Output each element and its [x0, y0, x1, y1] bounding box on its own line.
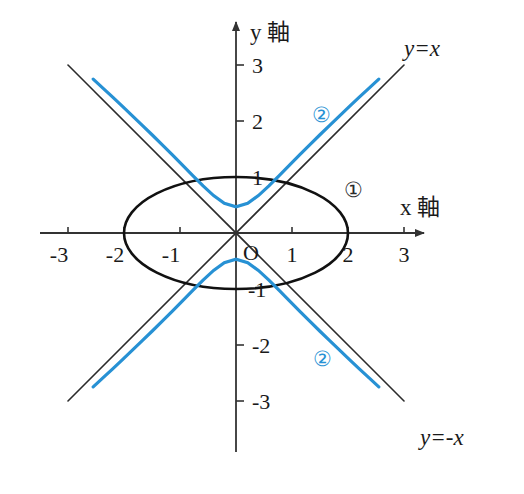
x-tick-label--2: -2 — [106, 242, 124, 267]
x-tick-label--3: -3 — [50, 242, 68, 267]
y-tick-label--3: -3 — [252, 389, 270, 414]
y-axis-label: y 軸 — [250, 20, 290, 45]
x-tick-label-2: 2 — [343, 242, 354, 267]
curve-marker-2-lower: ② — [313, 347, 332, 371]
curve-marker-2-upper: ② — [312, 103, 331, 127]
x-tick-label--1: -1 — [162, 242, 180, 267]
coordinate-plot: -3 -2 -1 1 2 3 3 2 1 -1 -2 -3 O x 軸 y 軸 … — [0, 0, 524, 494]
line-equation-y-equals-x: y=x — [402, 36, 441, 61]
line-equation-y-equals-minus-x: y=-x — [418, 425, 464, 450]
x-tick-label-1: 1 — [287, 242, 298, 267]
y-tick-label-2: 2 — [252, 109, 263, 134]
y-tick-label-3: 3 — [252, 53, 263, 78]
y-tick-label--1: -1 — [248, 277, 266, 302]
curve-marker-1: ① — [344, 178, 363, 202]
x-tick-label-3: 3 — [399, 242, 410, 267]
x-axis-label: x 軸 — [400, 195, 440, 220]
math-figure: -3 -2 -1 1 2 3 3 2 1 -1 -2 -3 O x 軸 y 軸 … — [0, 0, 524, 494]
origin-label: O — [243, 240, 259, 265]
y-tick-label--2: -2 — [252, 333, 270, 358]
y-tick-label-1: 1 — [252, 165, 263, 190]
